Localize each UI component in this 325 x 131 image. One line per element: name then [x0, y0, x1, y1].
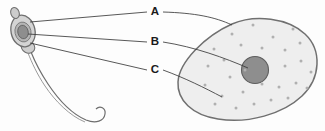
leader-line-c-left: [30, 43, 147, 70]
leader-line-a-right: [163, 12, 232, 25]
label-b: B: [151, 35, 159, 47]
label-c: C: [151, 63, 159, 75]
leader-line-a-left: [30, 12, 147, 22]
egg-cell: [178, 19, 317, 121]
diagram-labels: A B C: [151, 5, 159, 75]
sperm-cell: [8, 6, 105, 122]
diagram-canvas: A B C: [0, 0, 325, 131]
label-a: A: [151, 5, 159, 17]
leader-line-b-left: [28, 34, 147, 42]
fertilization-diagram: A B C: [0, 0, 325, 131]
